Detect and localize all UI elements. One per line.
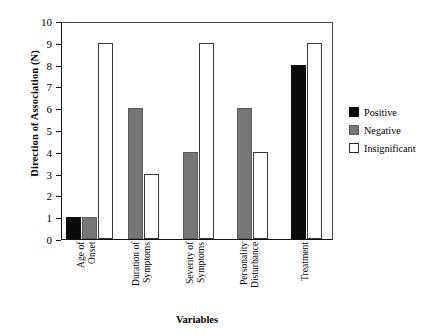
bar-negative-group-3 bbox=[183, 152, 198, 239]
x-axis-tick-labels: Age ofOnsetDuration ofSymptomsSeverity o… bbox=[61, 242, 333, 312]
bar-positive-group-1 bbox=[66, 217, 81, 239]
y-tick-mark-2 bbox=[56, 196, 61, 197]
x-tick-label-1: Age ofOnset bbox=[72, 242, 104, 312]
y-tick-label-10: 10 bbox=[28, 16, 52, 28]
legend-swatch-insignificant-icon bbox=[349, 143, 359, 153]
bar-chart-figure: Direction of Association (N) 10987654321… bbox=[0, 0, 436, 336]
y-tick-mark-3 bbox=[56, 175, 61, 176]
y-tick-label-5: 5 bbox=[28, 125, 52, 137]
x-tick-label-3: Severity ofSymptoms bbox=[181, 242, 213, 312]
x-tick-label-2: Duration ofSymptoms bbox=[127, 242, 159, 312]
y-tick-mark-8 bbox=[56, 66, 61, 67]
bar-insignificant-group-2 bbox=[144, 174, 159, 239]
y-tick-label-7: 7 bbox=[28, 81, 52, 93]
y-tick-label-4: 4 bbox=[28, 147, 52, 159]
bar-insignificant-group-5 bbox=[307, 43, 322, 239]
y-tick-label-8: 8 bbox=[28, 60, 52, 72]
bar-insignificant-group-3 bbox=[199, 43, 214, 239]
bar-positive-group-5 bbox=[291, 65, 306, 239]
x-tick-label-line: Disturbance bbox=[250, 242, 261, 312]
legend-swatch-positive-icon bbox=[349, 107, 359, 117]
x-tick-label-line: Treatment bbox=[300, 242, 311, 312]
y-tick-mark-10 bbox=[56, 22, 61, 23]
plot-area bbox=[61, 22, 333, 240]
x-tick-label-4: PersonalityDisturbance bbox=[235, 242, 267, 312]
bar-negative-group-1 bbox=[82, 217, 97, 239]
x-axis-title: Variables bbox=[61, 314, 333, 325]
y-tick-mark-1 bbox=[56, 218, 61, 219]
bar-negative-group-4 bbox=[237, 108, 252, 239]
y-tick-label-1: 1 bbox=[28, 212, 52, 224]
bar-insignificant-group-1 bbox=[98, 43, 113, 239]
legend-swatch-negative-icon bbox=[349, 125, 359, 135]
legend-label: Insignificant bbox=[364, 143, 416, 154]
legend-label: Negative bbox=[364, 125, 401, 136]
y-tick-mark-0 bbox=[56, 240, 61, 241]
y-tick-mark-5 bbox=[56, 131, 61, 132]
x-tick-label-5: Treatment bbox=[290, 242, 322, 312]
bars-layer bbox=[62, 23, 332, 239]
y-tick-label-6: 6 bbox=[28, 103, 52, 115]
legend-item-insignificant: Insignificant bbox=[349, 140, 435, 156]
x-tick-label-line: Symptoms bbox=[142, 242, 153, 312]
bar-insignificant-group-4 bbox=[253, 152, 268, 239]
y-tick-label-3: 3 bbox=[28, 169, 52, 181]
x-tick-label-line: Symptoms bbox=[196, 242, 207, 312]
y-tick-mark-6 bbox=[56, 109, 61, 110]
y-tick-label-0: 0 bbox=[28, 234, 52, 246]
legend-label: Positive bbox=[364, 107, 397, 118]
legend: PositiveNegativeInsignificant bbox=[349, 104, 435, 158]
legend-item-positive: Positive bbox=[349, 104, 435, 120]
legend-item-negative: Negative bbox=[349, 122, 435, 138]
y-axis-tick-labels: 109876543210 bbox=[28, 22, 52, 240]
x-tick-label-line: Onset bbox=[87, 242, 98, 312]
bar-negative-group-2 bbox=[128, 108, 143, 239]
y-tick-mark-9 bbox=[56, 44, 61, 45]
y-tick-mark-7 bbox=[56, 87, 61, 88]
x-tick-label-line: Duration of bbox=[131, 242, 142, 312]
y-tick-label-2: 2 bbox=[28, 190, 52, 202]
y-tick-mark-4 bbox=[56, 153, 61, 154]
y-tick-label-9: 9 bbox=[28, 38, 52, 50]
